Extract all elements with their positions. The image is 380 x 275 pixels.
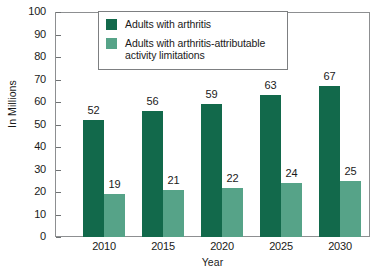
y-tick-label: 50 — [34, 118, 46, 130]
bar-value-label: 22 — [227, 172, 239, 184]
y-tick-label: 40 — [34, 140, 46, 152]
bar-value-label: 67 — [324, 70, 336, 82]
y-tick-label: 30 — [34, 163, 46, 175]
bar-activity-limitations: 19 — [104, 194, 125, 237]
y-tick-label: 100 — [28, 5, 46, 17]
y-tick-label: 20 — [34, 185, 46, 197]
bar-value-label: 25 — [345, 165, 357, 177]
bar-value-label: 52 — [88, 104, 100, 116]
y-tick-label: 10 — [34, 208, 46, 220]
y-tick-label: 60 — [34, 95, 46, 107]
y-axis-title: In Millions — [6, 44, 18, 164]
bar-value-label: 56 — [147, 95, 159, 107]
legend-label: Adults with arthritis-attributable activ… — [125, 37, 280, 62]
legend-label: Adults with arthritis — [125, 18, 211, 31]
y-tick-label: 70 — [34, 73, 46, 85]
bar-adults-arthritis: 67 — [319, 86, 340, 237]
bar-value-label: 19 — [109, 178, 121, 190]
bar-value-label: 63 — [265, 79, 277, 91]
x-tick-label: 2020 — [198, 240, 246, 252]
bar-activity-limitations: 25 — [340, 181, 361, 237]
bar-activity-limitations: 21 — [163, 190, 184, 237]
bar-activity-limitations: 22 — [222, 188, 243, 238]
x-tick-label: 2025 — [257, 240, 305, 252]
legend-swatch-icon — [106, 19, 117, 30]
legend-entry-adults-arthritis: Adults with arthritis — [106, 18, 280, 31]
bar-adults-arthritis: 63 — [260, 95, 281, 237]
bar-value-label: 21 — [168, 174, 180, 186]
bar-adults-arthritis: 59 — [201, 104, 222, 237]
legend-entry-activity-limitations: Adults with arthritis-attributable activ… — [106, 37, 280, 62]
x-tick-label: 2015 — [139, 240, 187, 252]
bar-adults-arthritis: 56 — [142, 111, 163, 237]
bar-adults-arthritis: 52 — [83, 120, 104, 237]
x-tick-label: 2030 — [316, 240, 364, 252]
legend-swatch-icon — [106, 38, 117, 49]
y-tick-mark — [56, 237, 61, 238]
bar-chart: In Millions 100 90 80 70 60 50 40 30 20 … — [0, 0, 380, 275]
x-axis-title: Year — [55, 256, 370, 268]
bar-value-label: 59 — [206, 88, 218, 100]
y-tick-label: 0 — [40, 230, 46, 242]
x-tick-label: 2010 — [80, 240, 128, 252]
y-tick-label: 90 — [34, 28, 46, 40]
bar-value-label: 24 — [286, 167, 298, 179]
y-tick-label: 80 — [34, 50, 46, 62]
legend: Adults with arthritis Adults with arthri… — [98, 11, 288, 70]
bar-group-2030: 67 25 — [319, 12, 377, 237]
bar-activity-limitations: 24 — [281, 183, 302, 237]
